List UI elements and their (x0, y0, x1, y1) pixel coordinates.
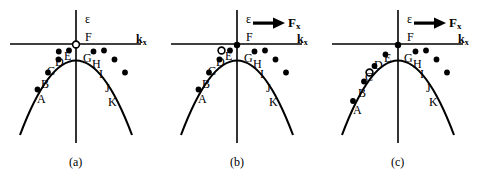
state-label-F: F (85, 31, 92, 43)
band-diagram-figure: ε F kx A B C D E G H I J K (a) (0, 0, 483, 176)
force-arrow-icon (414, 18, 446, 29)
state-label-I: I (260, 68, 264, 80)
hole-open-circle (73, 41, 80, 48)
state-label-G: G (244, 52, 253, 64)
electron-state-dot-E (56, 49, 62, 55)
state-label-I: I (420, 68, 424, 80)
k-axis-label: kx (297, 33, 308, 47)
state-label-K: K (108, 96, 117, 108)
state-label-D: D (374, 59, 383, 71)
hole-open-circle (218, 47, 225, 54)
state-label-J: J (266, 82, 271, 94)
state-label-K: K (429, 96, 438, 108)
force-label: Fx (449, 16, 461, 31)
state-label-E: E (384, 52, 391, 64)
state-label-A: A (198, 93, 207, 105)
panel-a: ε F kx A B C D E G H I J K (a) (0, 0, 161, 176)
k-axis-label: kx (458, 33, 469, 47)
panel-caption-c: (c) (391, 156, 404, 168)
state-label-C: C (365, 71, 373, 83)
state-label-A: A (37, 93, 46, 105)
state-label-J: J (426, 82, 431, 94)
state-label-B: B (41, 78, 49, 90)
state-label-E: E (225, 50, 232, 62)
panel-c: ε F kx Fx A B C D E G H I J K (c) (322, 0, 483, 176)
state-label-B: B (358, 87, 366, 99)
force-arrow-icon (253, 18, 285, 29)
state-label-F: F (407, 31, 414, 43)
panel-a-graphic (0, 0, 161, 176)
state-label-I: I (99, 68, 103, 80)
state-label-C: C (208, 65, 216, 77)
panel-b: ε F kx Fx A B C D E G H I J K (b) (161, 0, 322, 176)
k-axis-label: kx (136, 33, 147, 47)
state-label-F: F (246, 31, 253, 43)
state-label-C: C (47, 65, 55, 77)
state-label-D: D (55, 56, 64, 68)
state-label-A: A (353, 104, 362, 116)
panel-caption-b: (b) (230, 156, 244, 168)
panel-caption-a: (a) (69, 156, 82, 168)
energy-axis-label: ε (407, 13, 412, 25)
state-label-D: D (216, 56, 225, 68)
state-label-G: G (83, 52, 92, 64)
state-label-K: K (269, 96, 278, 108)
state-label-J: J (105, 82, 110, 94)
state-label-B: B (202, 78, 210, 90)
energy-axis-label: ε (246, 13, 251, 25)
state-label-G: G (404, 52, 413, 64)
force-label: Fx (288, 16, 300, 31)
state-label-E: E (64, 50, 71, 62)
energy-axis-label: ε (85, 13, 90, 25)
